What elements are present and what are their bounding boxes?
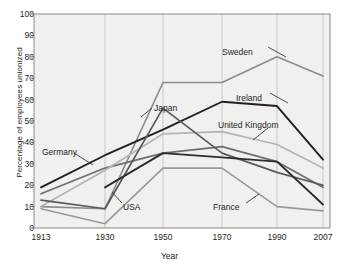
annotation-germany: Germany <box>42 148 77 157</box>
x-tick-label: 1950 <box>143 233 183 242</box>
annotation-united-kingdom: United Kingdom <box>218 121 278 130</box>
annotation-japan: Japan <box>154 104 177 113</box>
x-tick-label: 2007 <box>303 233 339 242</box>
annotation-ireland: Ireland <box>236 94 262 103</box>
annotation-usa: USA <box>123 203 140 212</box>
annotation-sweden: Sweden <box>222 48 253 57</box>
annotation-france: France <box>213 203 239 212</box>
chart-figure: Percentage of employees unionized 100908… <box>0 0 339 266</box>
x-tick-label: 1913 <box>21 233 61 242</box>
x-axis-ticks: 191319301950197019902007 <box>0 0 339 266</box>
x-tick-label: 1930 <box>85 233 125 242</box>
x-tick-label: 1970 <box>202 233 242 242</box>
x-tick-label: 1990 <box>257 233 297 242</box>
x-axis-title: Year <box>0 251 339 261</box>
